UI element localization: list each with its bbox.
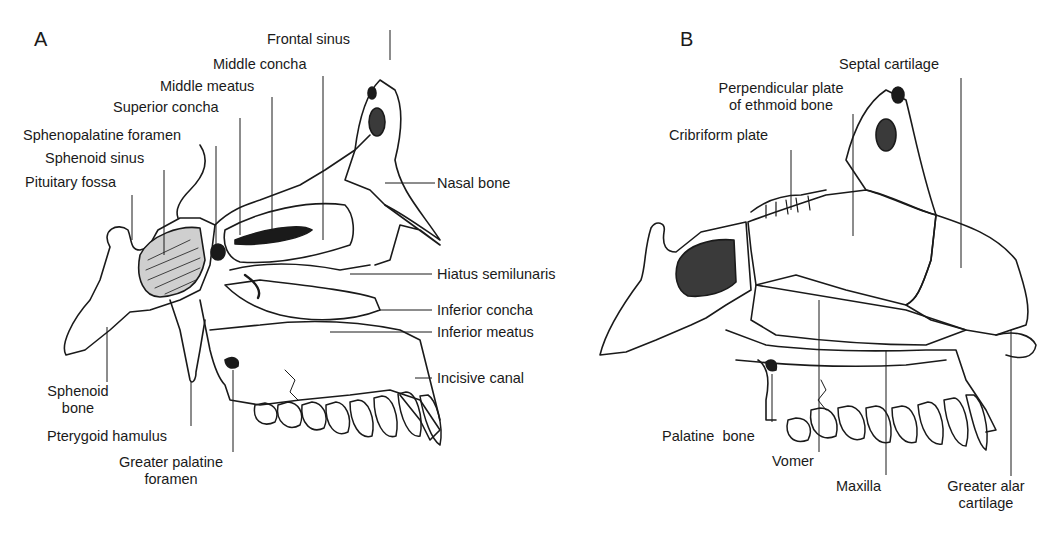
label-greater-alar-cartilage: Greater alar cartilage bbox=[936, 478, 1036, 512]
middle-meatus-shape bbox=[235, 227, 312, 245]
label-maxilla: Maxilla bbox=[836, 478, 881, 495]
label-greater-palatine-foramen-line1: Greater palatine bbox=[104, 454, 238, 471]
label-sphenopalatine-foramen: Sphenopalatine foramen bbox=[23, 127, 181, 144]
label-sphenoid-sinus: Sphenoid sinus bbox=[45, 150, 144, 167]
teeth-a bbox=[254, 392, 441, 445]
label-pterygoid-hamulus: Pterygoid hamulus bbox=[47, 428, 167, 445]
panel-b-nasal-septum: B bbox=[526, 0, 1052, 533]
label-incisive-canal: Incisive canal bbox=[437, 370, 524, 387]
label-sphenoid-bone-line2: bone bbox=[38, 400, 118, 417]
label-inferior-meatus: Inferior meatus bbox=[437, 324, 534, 341]
label-perpendicular-plate: Perpendicular plate of ethmoid bone bbox=[696, 80, 866, 114]
label-cribriform-plate: Cribriform plate bbox=[669, 127, 768, 144]
label-perpendicular-plate-line1: Perpendicular plate bbox=[696, 80, 866, 97]
sphenopalatine-foramen-shape bbox=[211, 244, 225, 260]
cribriform-plate-shape bbox=[751, 190, 826, 212]
panel-a-lateral-nasal-wall: A bbox=[0, 0, 526, 533]
label-greater-alar-cartilage-line2: cartilage bbox=[936, 495, 1036, 512]
label-perpendicular-plate-line2: of ethmoid bone bbox=[696, 97, 866, 114]
label-frontal-sinus: Frontal sinus bbox=[267, 31, 350, 48]
sphenoid-sinus-shape-b bbox=[676, 240, 736, 297]
septal-cartilage-shape bbox=[906, 215, 1028, 335]
label-vomer: Vomer bbox=[772, 453, 814, 470]
pterygoid-plate-shape bbox=[170, 300, 205, 382]
sphenoid-sinus-shape bbox=[139, 227, 205, 297]
label-greater-palatine-foramen-line2: foramen bbox=[104, 471, 238, 488]
label-greater-palatine-foramen: Greater palatine foramen bbox=[104, 454, 238, 488]
label-sphenoid-bone: Sphenoid bone bbox=[38, 383, 118, 417]
label-middle-meatus: Middle meatus bbox=[160, 78, 254, 95]
label-superior-concha: Superior concha bbox=[113, 99, 219, 116]
inferior-concha-shape bbox=[225, 280, 380, 320]
label-middle-concha: Middle concha bbox=[213, 56, 307, 73]
label-palatine-bone: Palatine bone bbox=[662, 428, 755, 445]
vomer-shape bbox=[751, 285, 966, 345]
label-nasal-bone: Nasal bone bbox=[437, 175, 510, 192]
label-greater-alar-cartilage-line1: Greater alar bbox=[936, 478, 1036, 495]
teeth-b bbox=[787, 395, 987, 450]
label-pituitary-fossa: Pituitary fossa bbox=[25, 174, 116, 191]
frontal-sinus-shape bbox=[369, 108, 385, 136]
nasal-bone-shape bbox=[375, 205, 440, 265]
label-sphenoid-bone-line1: Sphenoid bbox=[38, 383, 118, 400]
frontal-bone-shape bbox=[345, 80, 440, 240]
greater-palatine-foramen-shape bbox=[225, 358, 238, 368]
label-septal-cartilage: Septal cartilage bbox=[839, 56, 939, 73]
label-inferior-concha: Inferior concha bbox=[437, 302, 533, 319]
greater-alar-cartilage-shape bbox=[996, 333, 1036, 357]
